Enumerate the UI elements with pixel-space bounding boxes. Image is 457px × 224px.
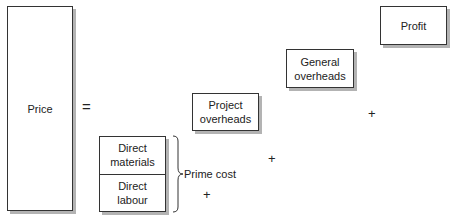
direct-labour-label: Direct labour <box>117 179 148 207</box>
general-overheads-label: General overheads <box>294 55 345 83</box>
plus-sign-3: + <box>368 107 376 120</box>
profit-label: Profit <box>401 19 427 33</box>
profit-box: Profit <box>380 6 447 45</box>
plus-sign-2: + <box>268 152 276 165</box>
direct-labour-cell: Direct labour <box>100 174 165 212</box>
price-box: Price <box>7 6 73 211</box>
direct-materials-cell: Direct materials <box>100 137 165 174</box>
direct-materials-label: Direct materials <box>110 141 155 169</box>
right-brace-icon <box>172 135 184 213</box>
equals-sign: = <box>82 100 91 113</box>
general-overheads-box: General overheads <box>286 49 354 88</box>
prime-cost-stack: Direct materials Direct labour <box>99 136 166 212</box>
project-overheads-box: Project overheads <box>192 93 259 131</box>
project-overheads-label: Project overheads <box>200 98 251 126</box>
price-label: Price <box>27 102 52 116</box>
plus-sign-1: + <box>203 188 211 201</box>
prime-cost-label: Prime cost <box>184 167 236 181</box>
